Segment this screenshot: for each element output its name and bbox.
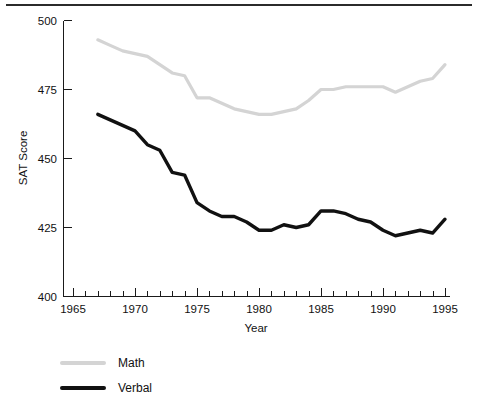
- y-tick-label-400: 400: [38, 291, 57, 303]
- y-tick-label-500: 500: [38, 15, 57, 27]
- x-tick-label-1990: 1990: [370, 303, 396, 315]
- chart-legend: Math Verbal: [62, 356, 152, 395]
- x-tick-label-1995: 1995: [432, 303, 458, 315]
- y-axis-tick-labels: 500 475 450 425 400: [38, 15, 57, 303]
- series-line-math: [98, 40, 445, 115]
- sat-score-line-chart: SAT Score 500 475 450 425 400 1965197019…: [0, 0, 478, 401]
- series-line-verbal: [98, 114, 445, 235]
- y-tick-label-425: 425: [38, 222, 57, 234]
- x-axis-ticks: [74, 288, 446, 297]
- legend-label-verbal: Verbal: [118, 381, 152, 395]
- x-axis-title: Year: [244, 322, 267, 334]
- y-axis-title: SAT Score: [17, 131, 29, 186]
- x-tick-label-1975: 1975: [184, 303, 210, 315]
- chart-canvas: SAT Score 500 475 450 425 400 1965197019…: [0, 0, 478, 401]
- y-axis-ticks: [64, 21, 72, 297]
- x-axis-tick-labels: 1965197019751980198519901995: [60, 303, 458, 315]
- legend-label-math: Math: [118, 356, 145, 370]
- x-tick-label-1985: 1985: [308, 303, 334, 315]
- x-tick-label-1965: 1965: [60, 303, 86, 315]
- data-series-group: [98, 40, 445, 236]
- x-tick-label-1980: 1980: [246, 303, 272, 315]
- y-tick-label-475: 475: [38, 84, 57, 96]
- x-tick-label-1970: 1970: [122, 303, 148, 315]
- y-tick-label-450: 450: [38, 153, 57, 165]
